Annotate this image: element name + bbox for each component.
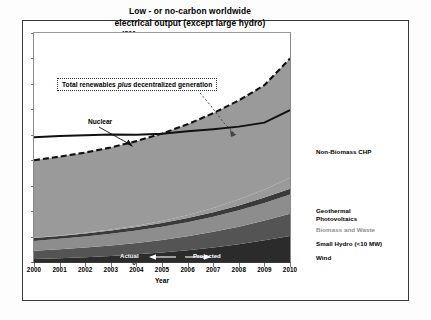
x-tick-mark (213, 263, 214, 267)
x-tick-mark (60, 263, 61, 267)
x-tick-mark (162, 263, 163, 267)
legend-label-small-hydro-10-mw: Small Hydro (<10 MW) (316, 240, 382, 247)
chart-title-line2: electrical output (except large hydro) (60, 18, 320, 30)
x-tick-mark (188, 263, 189, 267)
chart-title-line1: Low - or no-carbon worldwide (60, 6, 320, 18)
actual-projected-annotation: Actual Projected (33, 252, 291, 263)
x-tick-mark (290, 263, 291, 267)
annot-text-before: Total renewables (62, 81, 118, 88)
annot-text-italic: plus (118, 81, 132, 88)
legend-label-photovoltaics: Photovoltaics (316, 215, 357, 222)
actual-label: Actual (120, 252, 139, 259)
x-tick-mark (239, 263, 240, 267)
chart-title: Low - or no-carbon worldwide electrical … (60, 6, 320, 29)
x-tick-mark (34, 263, 35, 267)
legend-label-non-biomass-chp: Non-Biomass CHP (316, 148, 371, 155)
x-tick-mark (111, 263, 112, 267)
legend-label-geothermal: Geothermal (316, 207, 351, 214)
plot-area (33, 32, 291, 263)
annot-text-after: decentralized generation (131, 81, 212, 88)
x-tick-label: 2010 (273, 266, 307, 273)
actual-arrowhead (149, 254, 156, 260)
projected-label: Projected (193, 252, 221, 259)
x-tick-mark (136, 263, 137, 267)
stacked-area-svg (34, 33, 290, 262)
nuclear-label: Nuclear (88, 118, 112, 125)
legend-label-wind: Wind (316, 254, 331, 261)
legend-label-biomass-and-waste: Biomass and Waste (316, 226, 375, 233)
x-tick-mark (85, 263, 86, 267)
total-renewables-annotation: Total renewables plus decentralized gene… (57, 78, 217, 91)
x-tick-mark (264, 263, 265, 267)
chart-screenshot: Low - or no-carbon worldwide electrical … (0, 0, 431, 320)
x-axis-label: Year (33, 277, 291, 284)
